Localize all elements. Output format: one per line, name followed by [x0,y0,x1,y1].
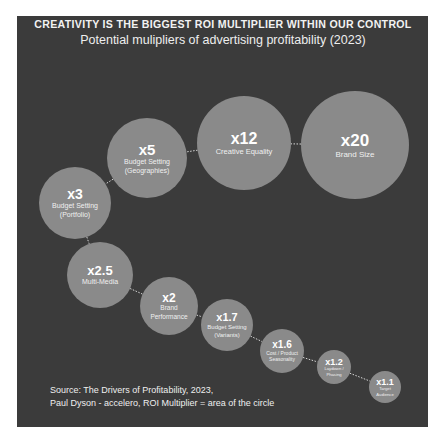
bubble-label: Performance [150,313,188,320]
connector-line [187,150,198,152]
bubble-value: x1.1 [376,377,394,387]
connector-line [350,373,370,381]
bubble-label: Seasonality [269,356,295,362]
bubble-label: Multi-Media [82,278,118,285]
bubble-chart: x20Brand Sizex12Creative Equalityx5Budge… [0,0,446,447]
bubble-label: Creative Equality [216,147,273,156]
bubble-value: x1.6 [272,339,292,350]
bubble-label: (Variants) [214,332,240,338]
connector-line [106,179,114,184]
connector-line [130,289,142,295]
bubble-value: x3 [67,186,83,202]
bubble: x5Budget Setting(Geographies) [107,118,187,198]
bubble-label: Laydown / [324,366,344,371]
bubble-label: Budget Setting [124,158,170,166]
bubble-value: x1.2 [325,357,343,367]
bubble-label: Brand Size [335,150,375,159]
bubble-value: x2 [162,291,176,305]
bubble-value: x5 [139,141,156,158]
bubbles-group: x20Brand Sizex12Creative Equalityx5Budge… [39,91,409,403]
connector-line [251,336,263,341]
bubble-label: Phasing [326,372,342,377]
bubble: x3Budget Setting(Portfolio) [39,167,111,239]
bubble: x1.7Budget Setting(Variants) [201,299,253,351]
bubble-label: Cost / Product [266,350,298,356]
source-note: Source: The Drivers of Profitability, 20… [50,384,274,410]
connector-line [87,237,89,244]
bubble: x2BrandPerformance [140,277,198,335]
bubble-value: x1.7 [216,311,237,323]
bubble-label: Budget Setting [207,324,246,330]
bubble-value: x2.5 [87,263,112,278]
bubble-label: Budget Setting [52,202,98,210]
source-line-1: Source: The Drivers of Profitability, 20… [50,384,274,397]
connector-line [197,315,203,317]
bubble-label: Target [379,386,391,391]
source-line-2: Paul Dyson - accelero, ROI Multiplier = … [50,397,274,410]
bubble: x1.6Cost / ProductSeasonality [260,329,304,373]
bubble-label: Audience [376,392,394,397]
bubble-label: (Portfolio) [60,211,90,219]
bubble: x12Creative Equality [197,96,291,190]
bubble: x1.2Laydown /Phasing [317,350,351,384]
bubble-label: (Geographies) [125,167,170,175]
bubble-label: Brand [160,304,178,311]
bubble: x2.5Multi-Media [67,242,133,308]
bubble: x1.1TargetAudience [369,371,401,403]
bubble-value: x20 [341,131,369,150]
bubble: x20Brand Size [301,91,409,199]
connector-line [303,357,318,362]
bubble-value: x12 [231,130,258,147]
